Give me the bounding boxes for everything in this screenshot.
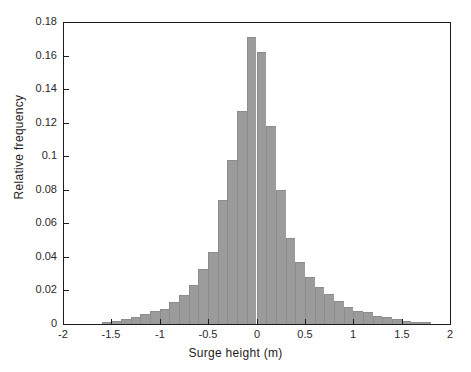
histogram-bar <box>227 160 237 324</box>
histogram-figure: 00.020.040.060.080.10.120.140.160.18 -2-… <box>0 0 471 372</box>
y-axis-tick-label: 0.18 <box>17 16 57 27</box>
x-axis-tick-mark <box>353 319 354 325</box>
x-axis-tick-label: -2 <box>38 328 88 340</box>
histogram-bar <box>411 322 421 324</box>
y-axis-tick-label: 0.04 <box>17 251 57 262</box>
histogram-bar <box>344 307 354 324</box>
axis-right-spine <box>450 22 451 325</box>
histogram-bar <box>131 317 141 324</box>
x-axis-tick-mark <box>160 319 161 325</box>
histogram-bar <box>276 190 286 324</box>
histogram-bar <box>295 262 305 324</box>
histogram-bar <box>150 311 160 324</box>
histogram-bar <box>140 314 150 324</box>
histogram-bar <box>353 311 363 324</box>
histogram-bar <box>305 277 315 324</box>
histogram-bar <box>373 316 383 324</box>
histogram-bar <box>266 126 276 324</box>
x-axis-tick-label: -1.5 <box>86 328 136 340</box>
histogram-bar <box>218 200 228 324</box>
histogram-bar <box>402 321 412 324</box>
x-axis-tick-label: 2 <box>425 328 471 340</box>
x-axis-tick-mark <box>208 319 209 325</box>
x-axis-tick-label: -1 <box>135 328 185 340</box>
histogram-bar <box>382 317 392 324</box>
y-axis-tick-mark <box>63 190 69 191</box>
x-axis-tick-label: 0 <box>232 328 282 340</box>
x-axis-tick-label: 1 <box>328 328 378 340</box>
y-axis-tick-mark <box>63 56 69 57</box>
histogram-bar <box>160 309 170 324</box>
x-axis-tick-mark <box>257 319 258 325</box>
y-axis-tick-mark <box>63 89 69 90</box>
y-axis-label: Relative frequency <box>12 67 26 227</box>
y-axis-tick-mark <box>63 22 69 23</box>
histogram-bar <box>102 322 112 324</box>
histogram-bar <box>198 269 208 324</box>
histogram-bar <box>179 295 189 324</box>
histogram-bar <box>363 312 373 324</box>
x-axis-tick-label: 1.5 <box>377 328 427 340</box>
histogram-bar <box>315 287 325 324</box>
x-axis-tick-label: 0.5 <box>280 328 330 340</box>
histogram-bar <box>421 322 431 324</box>
x-axis-tick-mark <box>450 319 451 325</box>
histogram-bar <box>208 252 218 324</box>
histogram-bar <box>257 52 267 324</box>
histogram-bar <box>247 37 257 324</box>
x-axis-label: Surge height (m) <box>0 346 471 360</box>
y-axis-tick-mark <box>63 290 69 291</box>
histogram-bar <box>121 319 131 324</box>
x-axis-tick-mark <box>305 319 306 325</box>
x-axis-tick-mark <box>111 319 112 325</box>
histogram-bar <box>189 285 199 324</box>
histogram-bar <box>392 319 402 324</box>
histogram-bar <box>169 302 179 324</box>
histogram-bar <box>324 294 334 324</box>
x-axis-tick-mark <box>402 319 403 325</box>
histogram-bar <box>334 301 344 324</box>
y-axis-tick-label: 0.16 <box>17 50 57 61</box>
y-axis-tick-mark <box>63 257 69 258</box>
y-axis-tick-label: 0.02 <box>17 284 57 295</box>
x-axis-tick-mark <box>63 319 64 325</box>
y-axis-tick-mark <box>63 223 69 224</box>
y-axis-tick-mark <box>63 123 69 124</box>
x-axis-tick-label: -0.5 <box>183 328 233 340</box>
histogram-bar <box>237 111 247 324</box>
y-axis-tick-mark <box>63 156 69 157</box>
plot-area <box>63 22 450 324</box>
histogram-bar <box>111 321 121 324</box>
histogram-bar <box>286 238 296 324</box>
